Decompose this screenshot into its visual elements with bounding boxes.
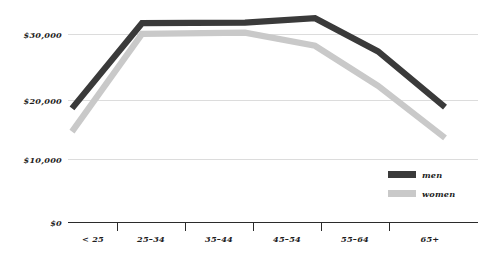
x-axis-label-65-plus: 65+ (421, 234, 440, 244)
chart-container: $30,000 $20,000 $10,000 $0 < 25 25–34 35… (0, 0, 494, 260)
series-line-women (72, 33, 445, 138)
y-axis-label-0: $0 (50, 218, 62, 228)
x-axis-ticks (118, 223, 390, 232)
y-axis-labels: $30,000 $20,000 $10,000 $0 (24, 30, 63, 228)
legend-label-men: men (422, 170, 442, 180)
line-chart: $30,000 $20,000 $10,000 $0 < 25 25–34 35… (0, 0, 494, 260)
x-axis-label-25-34: 25–34 (136, 234, 165, 244)
y-axis-label-20000: $20,000 (24, 96, 63, 106)
y-axis-label-30000: $30,000 (24, 30, 63, 40)
y-axis-label-10000: $10,000 (24, 155, 63, 165)
x-axis-label-35-44: 35–44 (205, 234, 233, 244)
x-axis-labels: < 25 25–34 35–44 45–54 55–64 65+ (82, 234, 439, 244)
x-axis-label-under-25: < 25 (82, 234, 104, 244)
legend-label-women: women (422, 189, 455, 199)
legend-swatch-men (388, 171, 416, 178)
x-axis-label-55-64: 55–64 (341, 234, 369, 244)
chart-legend: men women (388, 170, 455, 199)
legend-swatch-women (388, 190, 416, 197)
x-axis-label-45-54: 45–54 (273, 234, 301, 244)
